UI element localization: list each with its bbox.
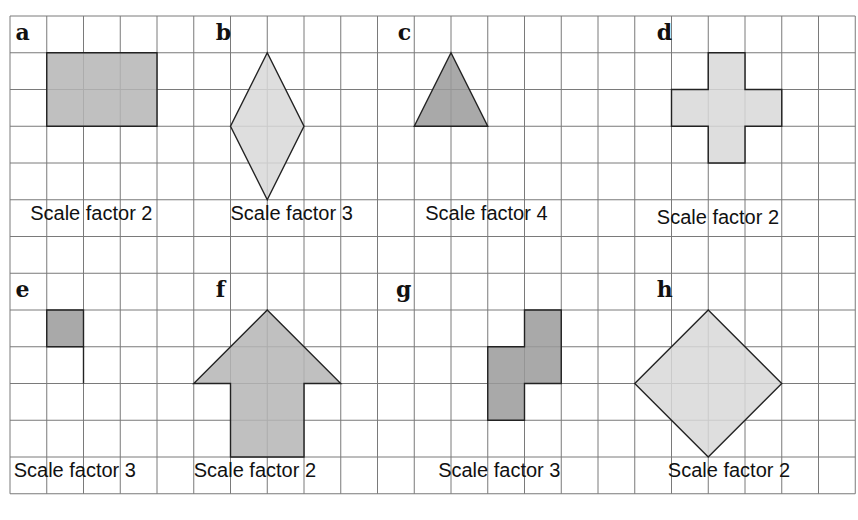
problem-label-c: c (398, 19, 411, 45)
caption-h: Scale factor 2 (668, 459, 790, 481)
shape-h-square-diamond (635, 310, 782, 457)
caption-d: Scale factor 2 (657, 206, 779, 228)
caption-f: Scale factor 2 (194, 459, 316, 481)
enlargement-worksheet: aScale factor 2bScale factor 3cScale fac… (0, 0, 858, 520)
caption-b: Scale factor 3 (231, 202, 353, 224)
caption-c: Scale factor 4 (425, 202, 547, 224)
shape-d-cross (672, 53, 782, 163)
problem-label-b: b (216, 19, 231, 45)
problem-label-g: g (396, 276, 411, 302)
grid-canvas: aScale factor 2bScale factor 3cScale fac… (0, 0, 858, 520)
problem-label-e: e (16, 276, 30, 302)
shape-a-rectangle (47, 53, 157, 127)
problem-label-h: h (657, 276, 673, 302)
caption-a: Scale factor 2 (30, 202, 152, 224)
shape-f-arrow (194, 310, 341, 457)
problem-label-a: a (16, 19, 30, 45)
caption-e: Scale factor 3 (14, 459, 136, 481)
shape-b-rhombus (231, 53, 305, 200)
problem-label-d: d (657, 19, 672, 45)
shape-g-s-tetromino (488, 310, 562, 420)
caption-g: Scale factor 3 (438, 459, 560, 481)
problem-label-f: f (216, 276, 227, 302)
shape-e-unit-square (47, 310, 84, 347)
